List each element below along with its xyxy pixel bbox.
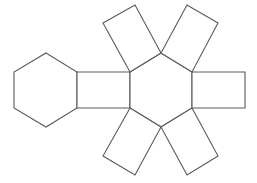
rectangle-left-face: [77, 72, 130, 108]
rectangle-right-face: [192, 72, 245, 108]
hexagonal-prism-net: [0, 0, 257, 183]
hexagon-left-face: [14, 53, 77, 127]
